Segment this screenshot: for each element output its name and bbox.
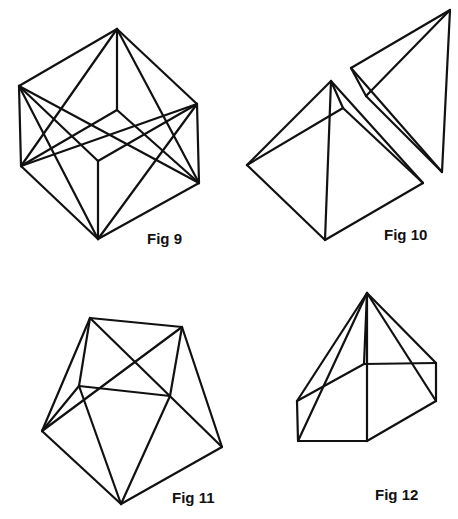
figures-canvas: Fig 9 Fig 10 Fig 11 Fig 12: [0, 0, 458, 519]
fig11-edge: [79, 386, 121, 504]
fig12-edge: [364, 363, 436, 364]
fig9-edge: [19, 86, 98, 161]
fig9-edge: [21, 166, 98, 239]
figure-10-pyramid-tetrahedron: [247, 10, 450, 240]
fig12-edge: [297, 401, 298, 441]
fig11-edge: [90, 318, 182, 327]
fig-12-label: Fig 12: [375, 486, 418, 503]
fig9-edge: [98, 104, 197, 239]
fig12-edge: [367, 401, 436, 441]
fig-11-label: Fig 11: [172, 489, 215, 506]
fig9-edge: [21, 29, 117, 166]
figure-9-cube: [19, 29, 199, 239]
fig-10-label: Fig 10: [384, 226, 427, 243]
fig11-edge: [182, 327, 222, 447]
fig11-edge: [170, 327, 182, 396]
fig12-edge: [367, 293, 436, 401]
fig12-edge: [367, 293, 436, 363]
figure-11-polyhedron: [42, 318, 222, 504]
fig9-edge: [19, 29, 117, 86]
fig-9-label: Fig 9: [147, 230, 182, 247]
fig11-edge: [121, 396, 170, 504]
fig10-edge: [325, 81, 331, 240]
fig9-edge: [117, 29, 197, 104]
fig10-edge: [351, 68, 442, 172]
fig10-edge: [343, 108, 423, 183]
fig9-edge: [19, 86, 21, 166]
fig12-edge: [297, 293, 367, 401]
fig10-edge: [442, 10, 450, 172]
fig10-edge: [247, 165, 325, 240]
fig10-edge: [331, 81, 343, 108]
figure-12-prism-pyramid: [297, 293, 436, 441]
fig9-edge: [197, 104, 199, 183]
